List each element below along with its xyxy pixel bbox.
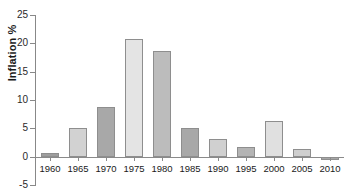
- bar-1980: [153, 51, 170, 157]
- bar-1995: [237, 147, 254, 157]
- bar-1990: [209, 139, 226, 157]
- x-tick: [218, 157, 219, 161]
- bar-1965: [69, 128, 86, 157]
- y-tick: [30, 185, 36, 186]
- x-tick-label: 1960: [36, 163, 64, 174]
- y-tick: [30, 100, 36, 101]
- x-tick: [78, 157, 79, 161]
- x-tick: [190, 157, 191, 161]
- x-tick-label: 2005: [288, 163, 316, 174]
- y-tick: [30, 157, 36, 158]
- y-tick-label: 10: [0, 95, 28, 105]
- x-tick-label: 2010: [316, 163, 344, 174]
- bar-2005: [293, 149, 310, 156]
- bar-1985: [181, 128, 198, 157]
- x-tick-label: 1980: [148, 163, 176, 174]
- y-tick-label: 0: [0, 152, 28, 162]
- x-tick: [274, 157, 275, 161]
- x-tick-label: 1970: [92, 163, 120, 174]
- x-tick: [134, 157, 135, 161]
- y-tick: [30, 72, 36, 73]
- y-tick-label: -5: [0, 180, 28, 190]
- x-tick: [162, 157, 163, 161]
- y-tick: [30, 15, 36, 16]
- x-tick-label: 1965: [64, 163, 92, 174]
- x-tick-label: 2000: [260, 163, 288, 174]
- y-tick-label: 15: [0, 67, 28, 77]
- x-tick: [106, 157, 107, 161]
- x-tick-label: 1975: [120, 163, 148, 174]
- y-axis-title: Inflation %: [6, 13, 20, 93]
- y-tick-label: 25: [0, 10, 28, 20]
- bar-2000: [265, 121, 282, 157]
- x-tick: [330, 157, 331, 161]
- x-tick: [246, 157, 247, 161]
- bar-1970: [97, 107, 114, 156]
- x-tick-label: 1985: [176, 163, 204, 174]
- bar-1975: [125, 39, 142, 156]
- inflation-bar-chart: Inflation % -50510152025 196019651970197…: [0, 0, 353, 193]
- x-tick: [50, 157, 51, 161]
- y-tick-label: 5: [0, 123, 28, 133]
- y-tick: [30, 43, 36, 44]
- x-tick-label: 1990: [204, 163, 232, 174]
- y-tick: [30, 128, 36, 129]
- y-tick-label: 20: [0, 38, 28, 48]
- x-tick-label: 1995: [232, 163, 260, 174]
- x-tick: [302, 157, 303, 161]
